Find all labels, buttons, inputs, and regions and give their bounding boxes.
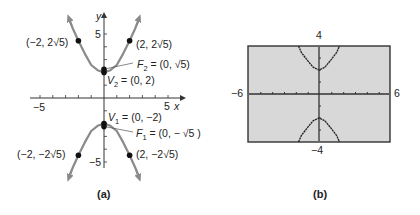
point-pos2-pos — [127, 38, 133, 44]
label-pos2-pos: (2, 2√5) — [136, 38, 172, 50]
panel-a: y x −5 5 5 −5 (−2, 2√5) (2, 2√5) F2 = (0… — [17, 10, 201, 200]
point-neg2-pos — [76, 38, 82, 44]
x-tick-label-pos5: 5 — [164, 100, 170, 112]
x-axis-label: x — [173, 100, 180, 112]
arrow-lower-left — [69, 171, 72, 179]
panel-b: 4 −4 −6 6 (b) — [231, 29, 400, 200]
label-neg2-pos: (−2, 2√5) — [26, 36, 68, 48]
x-tick-label-neg5: −5 — [33, 101, 45, 113]
point-neg2-neg — [76, 152, 82, 158]
label-neg2-neg: (−2, −2√5) — [17, 148, 65, 160]
label-pos2-neg: (2, −2√5) — [136, 148, 178, 160]
y-tick-label-neg5: −5 — [89, 156, 101, 168]
window-ymin-label: −4 — [311, 144, 323, 156]
arrow-upper-left — [69, 17, 72, 25]
window-xmax-label: 6 — [394, 87, 400, 99]
window-xmin-label: −6 — [231, 87, 243, 99]
label-f2: F2 = (0, √5) — [137, 58, 190, 73]
label-v2: V2 = (0, 2) — [107, 74, 155, 89]
point-vertex-v2 — [101, 70, 107, 76]
label-v1: V1 = (0, −2) — [108, 111, 162, 126]
point-focus-f1 — [101, 124, 107, 130]
caption-a: (a) — [97, 188, 111, 200]
y-axis-label: y — [95, 10, 102, 22]
leader-f2 — [107, 63, 133, 69]
arrow-upper-right — [137, 17, 140, 25]
figure: y x −5 5 5 −5 (−2, 2√5) (2, 2√5) F2 = (0… — [0, 0, 420, 215]
point-pos2-neg — [127, 152, 133, 158]
leader-f1 — [107, 127, 133, 132]
label-f1: F1 = (0, − √5 ) — [136, 127, 201, 142]
window-ymax-label: 4 — [316, 29, 322, 41]
caption-b: (b) — [313, 188, 327, 200]
arrow-lower-right — [137, 171, 140, 179]
y-tick-label-pos5: 5 — [95, 28, 101, 40]
